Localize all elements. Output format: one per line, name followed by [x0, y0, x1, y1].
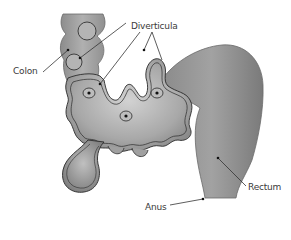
large-diverticulum	[63, 140, 104, 192]
label-diverticula: Diverticula	[131, 21, 178, 31]
label-rectum: Rectum	[248, 182, 281, 192]
label-anus: Anus	[145, 202, 166, 212]
colon-pouch-1	[78, 22, 96, 40]
colon-pouch-2	[66, 54, 82, 70]
label-colon: Colon	[13, 66, 38, 76]
